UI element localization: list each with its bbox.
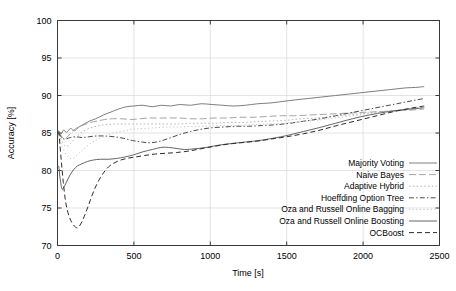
legend-label: Naive Bayes bbox=[356, 170, 404, 180]
legend-label: Hoeffding Option Tree bbox=[321, 193, 404, 203]
y-tick-label: 80 bbox=[41, 166, 51, 176]
x-tick-label: 1500 bbox=[277, 251, 297, 261]
y-tick-label: 100 bbox=[36, 16, 51, 26]
legend-label: OCBoost bbox=[370, 228, 405, 238]
accuracy-vs-time-line-chart: 05001000150020002500 707580859095100 Tim… bbox=[0, 0, 456, 291]
y-tick-label: 85 bbox=[41, 128, 51, 138]
legend-label: Majority Voting bbox=[348, 158, 404, 168]
x-axis-title: Time [s] bbox=[232, 268, 264, 278]
x-tick-label: 500 bbox=[126, 251, 141, 261]
legend-label: Adaptive Hybrid bbox=[344, 181, 404, 191]
x-tick-label: 2000 bbox=[353, 251, 373, 261]
y-tick-label: 70 bbox=[41, 241, 51, 251]
legend-label: Oza and Russell Online Boosting bbox=[279, 216, 404, 226]
x-tick-label: 1000 bbox=[200, 251, 220, 261]
legend-label: Oza and Russell Online Bagging bbox=[281, 204, 404, 214]
x-tick-label: 2500 bbox=[429, 251, 449, 261]
y-axis-title: Accuracy [%] bbox=[6, 107, 16, 160]
chart-figure: 05001000150020002500 707580859095100 Tim… bbox=[0, 0, 456, 291]
x-tick-label: 0 bbox=[55, 251, 60, 261]
y-tick-label: 90 bbox=[41, 91, 51, 101]
y-tick-label: 75 bbox=[41, 203, 51, 213]
y-tick-label: 95 bbox=[41, 53, 51, 63]
